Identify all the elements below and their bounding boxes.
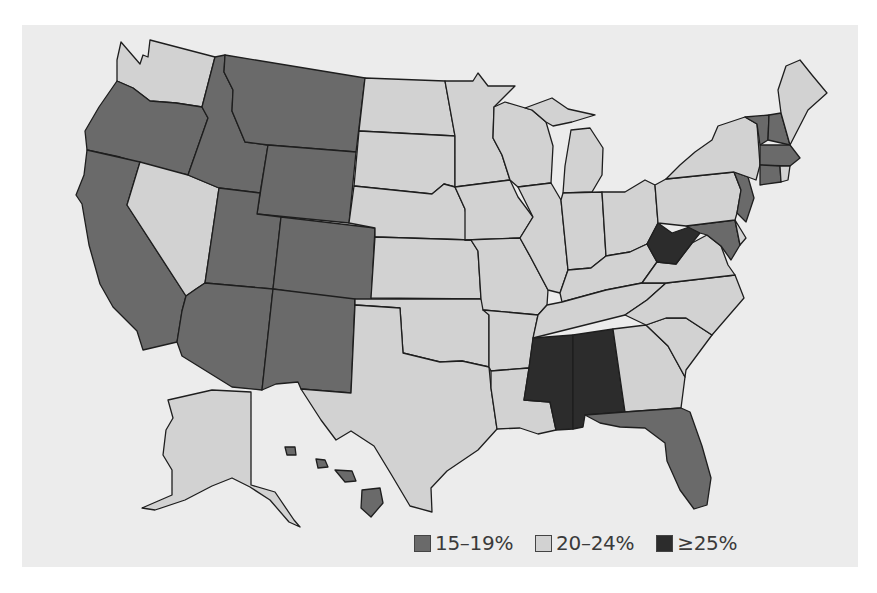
legend-swatch-20-24 — [535, 535, 552, 552]
state-ny — [666, 117, 760, 180]
state-nm — [262, 289, 355, 393]
legend-label-20-24: 20–24% — [556, 531, 634, 555]
state-ri — [780, 166, 790, 182]
state-az — [177, 283, 273, 390]
state-mt — [224, 55, 365, 152]
state-ma — [760, 145, 800, 166]
state-hi-oahu — [316, 459, 328, 468]
state-ct — [760, 165, 781, 185]
state-hi-kauai — [285, 447, 296, 455]
state-hi-big — [361, 488, 383, 517]
state-pa — [655, 172, 741, 226]
legend-label-15-19: 15–19% — [435, 531, 513, 555]
legend-item-15-19: 15–19% — [414, 531, 513, 555]
legend-item-25-plus: ≥25% — [656, 531, 737, 555]
legend-swatch-25-plus — [656, 535, 673, 552]
state-hi-maui — [335, 470, 356, 482]
us-choropleth-map — [0, 0, 877, 593]
legend-swatch-15-19 — [414, 535, 431, 552]
state-ks — [371, 237, 481, 299]
state-ak — [142, 390, 300, 527]
state-wy — [257, 145, 356, 223]
state-mi — [563, 128, 603, 193]
legend-label-25-plus: ≥25% — [677, 531, 737, 555]
state-sd — [354, 131, 455, 194]
state-fl — [585, 408, 711, 509]
state-nd — [359, 78, 455, 136]
state-in — [561, 192, 606, 270]
legend: 15–19% 20–24% ≥25% — [414, 530, 737, 556]
legend-item-20-24: 20–24% — [535, 531, 634, 555]
